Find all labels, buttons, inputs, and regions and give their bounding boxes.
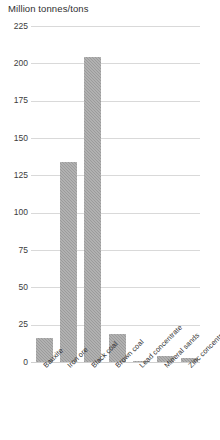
y-axis-tick-label: 225: [2, 22, 28, 31]
y-axis-tick-label: 150: [2, 134, 28, 143]
y-axis-tick-label: 175: [2, 96, 28, 105]
bar-series: [31, 26, 200, 362]
y-axis-tick-label: 0: [2, 358, 28, 367]
chart-title: Million tonnes/tons: [8, 3, 89, 15]
y-axis-tick-label: 200: [2, 59, 28, 68]
y-axis-tick-label: 25: [2, 320, 28, 329]
bar: [84, 57, 101, 362]
y-axis-tick-label: 125: [2, 171, 28, 180]
bar: [60, 162, 77, 362]
y-axis-tick-label: 50: [2, 283, 28, 292]
y-axis-tick-label: 100: [2, 208, 28, 217]
x-axis-tick-labels: BauxiteIron oreBlack coalBrown coalLead …: [31, 364, 206, 440]
y-axis-tick-label: 75: [2, 246, 28, 255]
bar-chart: Million tonnes/tons 02550751001251501752…: [0, 0, 220, 440]
plot-area: [31, 26, 200, 362]
y-axis-tick-labels: 0255075100125150175200225: [0, 26, 28, 362]
